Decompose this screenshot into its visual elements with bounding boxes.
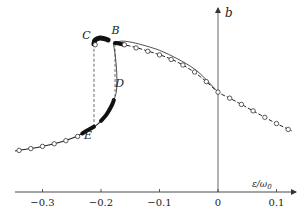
point-label-C: C [82, 29, 91, 42]
data-point [274, 121, 278, 125]
x-tick-label: −0.1 [147, 197, 171, 208]
data-point [52, 142, 56, 146]
data-point [216, 90, 220, 94]
point-label-D: D [114, 77, 124, 90]
point-label-B: B [111, 24, 120, 37]
x-axis-label: ε/ω0 [252, 179, 272, 191]
markers-layer [17, 43, 291, 153]
segment-D [101, 100, 114, 121]
data-point [64, 138, 68, 142]
data-point [228, 96, 232, 100]
data-point [29, 146, 33, 150]
x-tick-label: −0.3 [30, 197, 54, 208]
data-point [17, 148, 21, 152]
series-upper-branch-thin [113, 41, 218, 92]
x-axis-label-sub: 0 [267, 183, 272, 191]
data-point [157, 53, 161, 57]
data-point [204, 79, 208, 83]
x-tick-label: −0.2 [89, 197, 113, 208]
bifurcation-chart: −0.3−0.2−0.100.1 b ε/ω0 CBDE [0, 0, 307, 220]
y-axis-label: b [225, 6, 233, 20]
x-tick-label: 0.1 [269, 197, 285, 208]
data-point [286, 127, 290, 131]
data-point [169, 57, 173, 61]
data-point [75, 134, 79, 138]
x-axis-label-main: ε/ω [252, 179, 268, 189]
data-point [239, 102, 243, 106]
data-point [122, 43, 126, 47]
data-point [40, 144, 44, 148]
series-lower-branch [15, 100, 114, 151]
data-point [251, 109, 255, 113]
point-label-E: E [83, 129, 92, 142]
data-point [181, 63, 185, 67]
series-layer [15, 38, 292, 151]
data-point [93, 43, 97, 47]
data-point [263, 115, 267, 119]
axes [15, 8, 296, 192]
labels-layer: b ε/ω0 CBDE [82, 6, 272, 191]
data-point [146, 49, 150, 53]
data-point [192, 70, 196, 74]
x-tick-label: 0 [215, 197, 221, 208]
data-point [134, 46, 138, 50]
